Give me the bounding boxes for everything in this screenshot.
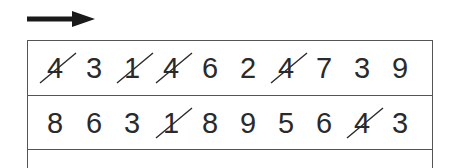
- digit-value: 1: [124, 52, 140, 84]
- crossed-digit[interactable]: 1: [117, 49, 147, 87]
- digit[interactable]: 3: [79, 49, 109, 87]
- right-arrow-icon: [27, 11, 95, 27]
- crossed-digit[interactable]: 4: [347, 104, 377, 142]
- crossed-digit[interactable]: 1: [156, 104, 186, 142]
- digit[interactable]: 2: [233, 49, 263, 87]
- crossed-digit[interactable]: 4: [156, 49, 186, 87]
- digit-value: 3: [354, 52, 370, 84]
- crossed-digit[interactable]: 4: [40, 49, 70, 87]
- digit-value: 7: [316, 52, 332, 84]
- digit[interactable]: 6: [309, 104, 339, 142]
- digit[interactable]: 8: [40, 104, 70, 142]
- digit[interactable]: 6: [79, 104, 109, 142]
- digit-value: 6: [86, 107, 102, 139]
- digit-value: 6: [202, 52, 218, 84]
- digit-grid: 4314624739 8631895643: [27, 40, 433, 168]
- digit-value: 8: [47, 107, 63, 139]
- crossed-digit[interactable]: 4: [271, 49, 301, 87]
- digit[interactable]: 7: [309, 49, 339, 87]
- digit-value: 9: [392, 52, 408, 84]
- digit-value: 6: [316, 107, 332, 139]
- digit-row-2: 8631895643: [28, 95, 432, 150]
- digit[interactable]: 9: [233, 104, 263, 142]
- digit-value: 2: [240, 52, 256, 84]
- digit-value: 4: [354, 107, 370, 139]
- digit[interactable]: 8: [195, 104, 225, 142]
- digit-value: 5: [278, 107, 294, 139]
- digit[interactable]: 6: [195, 49, 225, 87]
- digit-value: 1: [163, 107, 179, 139]
- digit-row-3-partial: [28, 149, 432, 168]
- digit-value: 4: [278, 52, 294, 84]
- digit[interactable]: 3: [347, 49, 377, 87]
- digit[interactable]: 5: [271, 104, 301, 142]
- digit-value: 9: [240, 107, 256, 139]
- digit-value: 3: [392, 107, 408, 139]
- digit-value: 3: [86, 52, 102, 84]
- digit[interactable]: 3: [117, 104, 147, 142]
- digit-value: 4: [163, 52, 179, 84]
- digit-value: 8: [202, 107, 218, 139]
- digit-row-1: 4314624739: [28, 40, 432, 95]
- digit[interactable]: 3: [385, 104, 415, 142]
- digit-value: 4: [47, 52, 63, 84]
- digit[interactable]: 9: [385, 49, 415, 87]
- digit-value: 3: [124, 107, 140, 139]
